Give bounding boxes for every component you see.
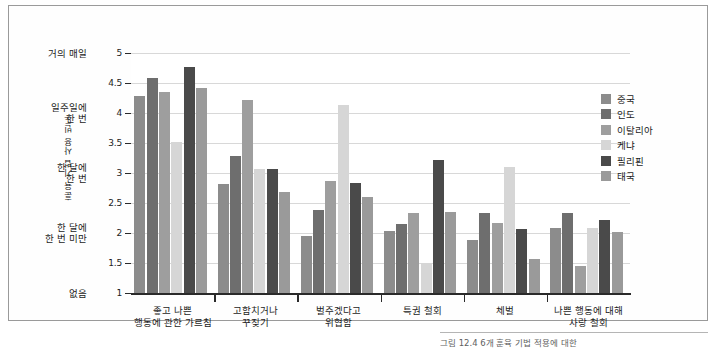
bar-중국-3 [384,231,395,293]
legend-swatch-icon [601,94,611,104]
y-axis-tick-mark [125,113,131,114]
bar-인도-1 [230,156,241,293]
y-axis-category-label: 일주일에 한 번 [9,102,87,124]
bar-태국-5 [612,232,623,293]
chart-legend: 중국인도이탈리아케냐필리핀태국 [601,91,653,184]
bar-케냐-4 [504,167,515,293]
bar-인도-3 [396,224,407,293]
bar-중국-0 [134,96,145,293]
bar-필리핀-0 [184,67,195,293]
screenshot-page: 훈육 기법 사용 빈도 거의 매일일주일에 한 번한 달에 한 번한 달에 한 … [0,0,717,348]
bar-태국-0 [196,88,207,293]
bar-케냐-2 [338,105,349,293]
y-axis-tick-mark [125,263,131,264]
bar-이탈리아-0 [159,92,170,293]
x-axis-category-label: 나쁜 행동에 대해 사랑 철회 [528,305,648,328]
legend-item-케냐[interactable]: 케냐 [601,138,653,153]
y-axis-tick-mark [125,83,131,84]
y-axis-tick-mark [125,293,131,294]
y-axis-tick-mark [125,233,131,234]
bar-인도-5 [562,213,573,293]
bar-인도-2 [313,210,324,293]
legend-swatch-icon [601,109,611,119]
bar-필리핀-2 [350,183,361,293]
figure-caption: 그림 12.4 6개 훈육 기법 적용에 대한 [440,336,715,348]
y-axis-tick-label: 3.5 [108,138,122,148]
bar-태국-4 [529,259,540,293]
legend-label: 중국 [617,92,635,106]
y-axis-tick-mark [125,53,131,54]
bar-중국-5 [550,228,561,293]
legend-swatch-icon [601,125,611,135]
bar-태국-1 [279,192,290,293]
plot-area: 11.522.533.544.55 [131,53,630,293]
caption-divider [440,332,708,333]
x-axis-group-tick [381,295,383,302]
gridline [131,53,630,54]
y-axis-tick-label: 1.5 [108,258,122,268]
legend-item-필리핀[interactable]: 필리핀 [601,153,653,168]
bar-이탈리아-3 [408,213,419,293]
y-axis-tick-label: 4.5 [108,78,122,88]
bar-필리핀-3 [433,160,444,293]
y-axis-tick-label: 3 [116,168,122,178]
legend-label: 인도 [617,107,635,121]
bar-중국-4 [467,240,478,293]
bar-이탈리아-5 [575,266,586,293]
y-axis-tick-label: 2 [116,228,122,238]
y-axis-tick-label: 1 [116,288,122,298]
bar-태국-3 [445,212,456,293]
y-axis-category-label: 한 달에 한 번 미만 [9,222,87,244]
bar-케냐-0 [171,142,182,293]
legend-label: 이탈리아 [617,123,653,137]
legend-swatch-icon [601,171,611,181]
y-axis-tick-mark [125,203,131,204]
legend-item-태국[interactable]: 태국 [601,169,653,184]
bar-필리핀-4 [516,229,527,293]
bar-중국-2 [301,236,312,293]
y-axis-tick-label: 4 [116,108,122,118]
y-axis-tick-label: 2.5 [108,198,122,208]
legend-label: 케냐 [617,138,635,152]
bar-필리핀-5 [599,220,610,293]
legend-item-중국[interactable]: 중국 [601,91,653,106]
y-axis-category-label: 거의 매일 [9,48,87,59]
bar-케냐-1 [254,169,265,293]
legend-label: 태국 [617,169,635,183]
legend-swatch-icon [601,156,611,166]
y-axis-tick-mark [125,143,131,144]
bar-중국-1 [218,184,229,293]
legend-label: 필리핀 [617,154,644,168]
y-axis-title: 훈육 기법 사용 빈도 [65,114,79,200]
x-axis-group-tick [214,295,216,302]
bar-이탈리아-1 [242,100,253,293]
bar-이탈리아-4 [492,223,503,293]
x-axis-group-tick [547,295,549,302]
bar-인도-0 [147,78,158,293]
y-axis-category-label: 없음 [9,288,87,299]
x-axis-group-tick [464,295,466,302]
legend-swatch-icon [601,140,611,150]
chart-figure-frame: 훈육 기법 사용 빈도 거의 매일일주일에 한 번한 달에 한 번한 달에 한 … [8,5,708,321]
legend-item-인도[interactable]: 인도 [601,107,653,122]
x-axis-group-tick [297,295,299,302]
y-axis-category-label: 한 달에 한 번 [9,162,87,184]
bar-이탈리아-2 [325,181,336,293]
gridline [131,83,630,84]
bar-인도-4 [479,213,490,293]
bar-필리핀-1 [267,169,278,293]
y-axis-tick-mark [125,173,131,174]
bar-케냐-5 [587,228,598,293]
bar-케냐-3 [421,263,432,293]
legend-item-이탈리아[interactable]: 이탈리아 [601,122,653,137]
bar-태국-2 [362,197,373,293]
y-axis-tick-label: 5 [116,48,122,58]
